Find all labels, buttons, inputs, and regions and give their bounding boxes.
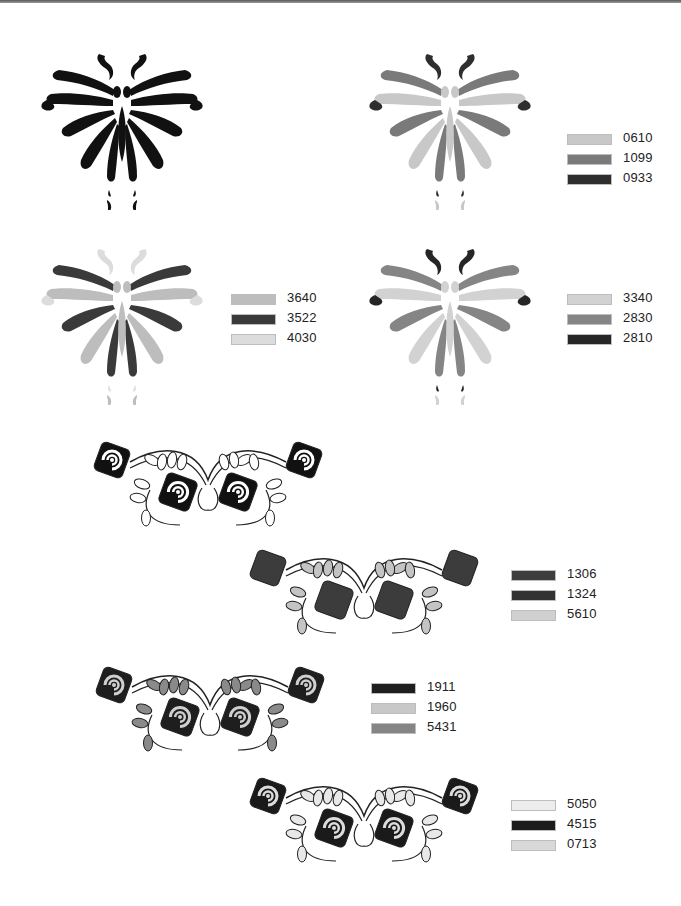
color-swatch: [231, 334, 276, 345]
thread-code: 5050: [567, 796, 597, 811]
color-swatch: [371, 703, 416, 714]
thread-code: 3522: [287, 310, 317, 325]
butterfly-motif-icon: [365, 50, 535, 210]
thread-code: 1099: [623, 150, 653, 165]
color-swatch: [567, 334, 612, 345]
rose-garland-motif-icon: [246, 548, 482, 648]
rose-garland-motif-icon: [246, 776, 482, 876]
butterfly-motif-icon: [37, 245, 207, 405]
butterfly-figure-3: [37, 245, 207, 405]
thread-code: 3640: [287, 290, 317, 305]
thread-code: 2810: [623, 330, 653, 345]
thread-code: 0713: [567, 836, 597, 851]
color-swatch: [567, 134, 612, 145]
thread-code: 4030: [287, 330, 317, 345]
color-swatch: [511, 840, 556, 851]
color-swatch: [567, 154, 612, 165]
color-swatch: [511, 590, 556, 601]
thread-code: 5431: [427, 719, 457, 734]
thread-code: 1324: [567, 586, 597, 601]
color-swatch: [371, 683, 416, 694]
rose-garland-figure-4: [246, 776, 482, 876]
color-swatch: [567, 294, 612, 305]
rose-garland-figure-3: [92, 665, 328, 765]
butterfly-motif-icon: [365, 245, 535, 405]
color-swatch: [371, 723, 416, 734]
color-swatch: [511, 570, 556, 581]
color-swatch: [231, 314, 276, 325]
rose-garland-figure-2: [246, 548, 482, 648]
color-swatch: [511, 820, 556, 831]
thread-code: 1306: [567, 566, 597, 581]
color-swatch: [511, 610, 556, 621]
thread-code: 1960: [427, 699, 457, 714]
thread-code: 0610: [623, 130, 653, 145]
color-swatch: [511, 800, 556, 811]
color-swatch: [231, 294, 276, 305]
top-border-bar: [0, 0, 681, 3]
thread-code: 0933: [623, 170, 653, 185]
thread-code: 5610: [567, 606, 597, 621]
butterfly-figure-4: [365, 245, 535, 405]
rose-garland-figure-1: [90, 440, 326, 540]
rose-garland-motif-icon: [92, 665, 328, 765]
butterfly-figure-1: [37, 50, 207, 210]
thread-code: 3340: [623, 290, 653, 305]
thread-code: 4515: [567, 816, 597, 831]
rose-garland-motif-icon: [90, 440, 326, 540]
color-swatch: [567, 174, 612, 185]
butterfly-motif-icon: [37, 50, 207, 210]
thread-code: 2830: [623, 310, 653, 325]
butterfly-figure-2: [365, 50, 535, 210]
thread-code: 1911: [427, 679, 456, 694]
color-swatch: [567, 314, 612, 325]
